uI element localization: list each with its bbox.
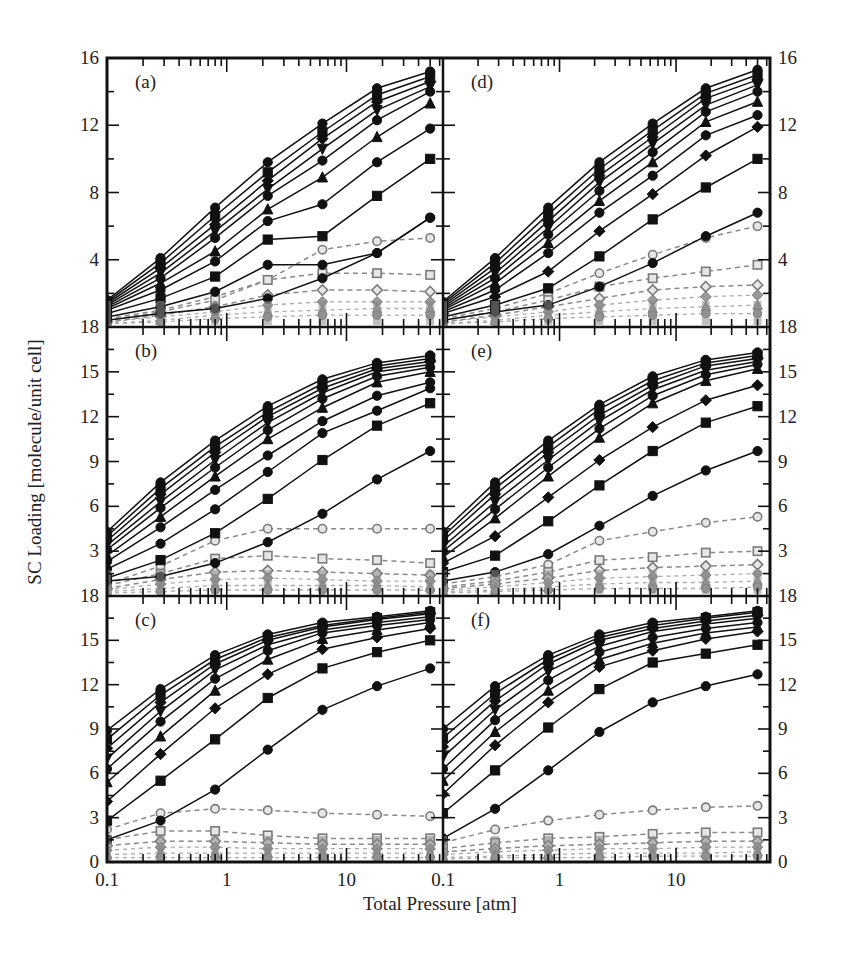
y-tick-label: 0: [778, 851, 788, 872]
y-tick-label: 4: [90, 249, 100, 270]
data-marker: [318, 429, 327, 438]
y-tick-label: 12: [80, 114, 99, 135]
panel-e: 369121518(e): [437, 316, 797, 597]
solid-series-line: [443, 361, 758, 546]
y-tick-label: 6: [778, 495, 788, 516]
data-marker: [372, 191, 381, 200]
data-marker: [595, 208, 604, 217]
data-marker: [490, 513, 500, 523]
data-marker: [372, 682, 381, 691]
data-marker: [426, 399, 435, 408]
data-marker: [426, 446, 435, 455]
data-marker: [752, 290, 762, 300]
y-tick-label: 9: [778, 718, 788, 739]
data-marker: [595, 556, 603, 564]
data-marker: [595, 727, 604, 736]
y-tick-label: 12: [80, 674, 99, 695]
data-marker: [210, 471, 220, 481]
data-marker: [426, 664, 435, 673]
data-marker: [544, 517, 553, 526]
data-marker: [702, 548, 710, 556]
y-tick-label: 15: [778, 629, 797, 650]
data-marker: [491, 766, 500, 775]
chart-panels: 481216(a)369121518(b)0369121518(c)0.1110…: [80, 47, 797, 890]
data-marker: [702, 267, 710, 275]
data-marker: [318, 245, 326, 253]
y-tick-label: 3: [778, 807, 788, 828]
data-marker: [156, 816, 165, 825]
data-marker: [211, 287, 220, 296]
data-marker: [263, 494, 272, 503]
y-tick-label: 3: [778, 540, 788, 561]
data-marker: [594, 195, 604, 205]
y-tick-label: 18: [80, 316, 99, 337]
baseline-marker-cluster: [702, 836, 710, 860]
data-marker: [263, 433, 273, 443]
data-marker: [211, 257, 220, 266]
multi-panel-isotherm-chart: 481216(a)369121518(b)0369121518(c)0.1110…: [0, 0, 842, 962]
y-tick-label: 9: [90, 451, 100, 472]
data-marker: [701, 682, 710, 691]
data-marker: [263, 216, 272, 225]
data-marker: [317, 644, 328, 655]
data-marker: [543, 685, 553, 695]
panel-f: 0369121518(f)0.1110: [431, 585, 797, 890]
data-marker: [263, 235, 272, 244]
data-marker: [211, 827, 219, 835]
data-marker: [648, 491, 657, 500]
data-marker: [544, 723, 553, 732]
y-tick-label: 8: [778, 182, 788, 203]
data-marker: [318, 705, 327, 714]
data-marker: [490, 531, 501, 542]
data-marker: [701, 281, 711, 291]
baseline-marker-cluster: [373, 836, 381, 860]
data-marker: [263, 260, 272, 269]
data-marker: [211, 485, 220, 494]
data-marker: [210, 246, 220, 256]
data-marker: [595, 252, 604, 261]
data-marker: [211, 529, 220, 538]
data-marker: [372, 648, 381, 657]
data-marker: [264, 525, 272, 533]
data-marker: [263, 191, 272, 200]
data-marker: [317, 172, 327, 182]
data-marker: [701, 466, 710, 475]
data-marker: [263, 451, 272, 460]
data-marker: [156, 285, 165, 294]
panel-label: (d): [471, 71, 493, 93]
data-marker: [753, 670, 762, 679]
x-tick-label: 0.1: [95, 869, 119, 890]
data-marker: [753, 513, 761, 521]
x-tick-label: 1: [555, 869, 565, 890]
data-marker: [426, 559, 434, 567]
data-marker: [753, 208, 762, 217]
data-marker: [211, 203, 220, 212]
data-marker: [318, 809, 326, 817]
data-marker: [648, 698, 657, 707]
panel-c: 0369121518(c)0.1110: [80, 585, 443, 890]
data-marker: [211, 233, 220, 242]
y-tick-label: 18: [778, 585, 797, 606]
data-marker: [702, 803, 710, 811]
data-marker: [263, 654, 273, 664]
data-marker: [701, 649, 710, 658]
data-marker: [648, 528, 656, 536]
y-tick-label: 15: [80, 629, 99, 650]
data-marker: [211, 735, 220, 744]
data-marker: [318, 554, 326, 562]
data-marker: [544, 248, 553, 257]
y-tick-label: 18: [778, 316, 797, 337]
data-marker: [318, 156, 327, 165]
baseline-marker-cluster: [264, 570, 272, 594]
panel-label: (f): [471, 609, 490, 631]
data-marker: [373, 556, 381, 564]
data-marker: [543, 471, 553, 481]
data-marker: [372, 406, 381, 415]
data-marker: [318, 455, 327, 464]
data-marker: [648, 171, 657, 180]
solid-series-line: [107, 640, 430, 820]
data-marker: [426, 234, 434, 242]
data-marker: [156, 556, 165, 565]
panel-b: 369121518(b): [80, 316, 443, 597]
data-marker: [262, 669, 273, 680]
